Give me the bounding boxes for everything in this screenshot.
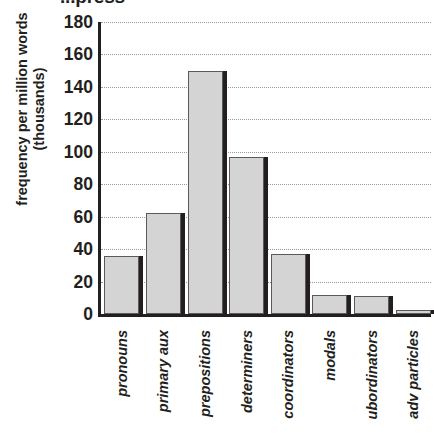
bar-series xyxy=(101,22,431,314)
x-tick-label: prepositions xyxy=(197,330,213,417)
bar xyxy=(271,254,306,314)
y-tick-label: 120 xyxy=(64,109,93,130)
bar xyxy=(104,256,139,314)
y-tick-label: 80 xyxy=(74,174,93,195)
x-tick-label-slot: determiners xyxy=(229,330,264,438)
bar-slot xyxy=(312,22,347,314)
x-tick-label-slot: primary aux xyxy=(146,330,181,438)
y-tick-label: 140 xyxy=(64,76,93,97)
bar-slot xyxy=(354,22,389,314)
x-tick-label-slot: ubordinators xyxy=(354,330,389,438)
bar xyxy=(229,157,264,314)
bar xyxy=(312,295,347,314)
bar xyxy=(396,310,431,314)
x-axis-line xyxy=(98,314,431,317)
x-tick-label: primary aux xyxy=(155,330,171,412)
y-tick-label: 20 xyxy=(74,271,93,292)
bar xyxy=(188,71,223,314)
y-tick-label: 100 xyxy=(64,141,93,162)
bar-slot xyxy=(146,22,181,314)
y-tick-label: 40 xyxy=(74,239,93,260)
bar-slot xyxy=(229,22,264,314)
bar xyxy=(354,296,389,314)
plot-area: 020406080100120140160180 xyxy=(98,22,431,314)
x-tick-label: coordinators xyxy=(280,330,296,419)
x-tick-label: ubordinators xyxy=(364,330,380,419)
y-tick-label: 0 xyxy=(83,304,93,325)
x-tick-label-slot: prepositions xyxy=(188,330,223,438)
x-axis-tick-labels: pronounsprimary auxprepositionsdetermine… xyxy=(101,330,434,438)
x-tick-label-slot: modals xyxy=(312,330,347,438)
x-tick-label-slot: adv particles xyxy=(396,330,431,438)
x-tick-label: pronouns xyxy=(114,330,130,397)
x-tick-label: determiners xyxy=(239,330,255,413)
bar-slot xyxy=(396,22,431,314)
x-tick-label-slot: pronouns xyxy=(104,330,139,438)
bar-slot xyxy=(271,22,306,314)
y-tick-label: 60 xyxy=(74,206,93,227)
y-tick-label: 180 xyxy=(64,12,93,33)
bar-slot xyxy=(104,22,139,314)
x-tick-label-slot: coordinators xyxy=(271,330,306,438)
bar xyxy=(146,213,181,314)
x-tick-label: adv particles xyxy=(405,330,421,419)
y-tick-label: 160 xyxy=(64,44,93,65)
chart-title: ...press xyxy=(60,0,125,8)
x-tick-label: modals xyxy=(322,330,338,381)
bar-slot xyxy=(188,22,223,314)
y-axis-title: frequency per million words (thousands) xyxy=(14,0,48,219)
